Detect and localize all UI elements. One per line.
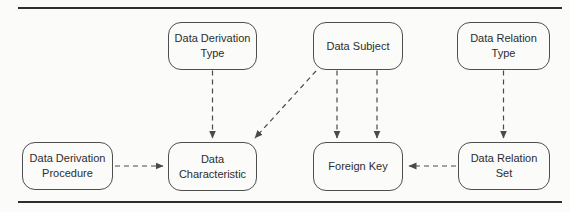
edge-data-subject-to-data-characteristic xyxy=(255,71,316,138)
node-data-derivation-type: Data Derivation Type xyxy=(168,22,257,70)
node-data-derivation-procedure: Data Derivation Procedure xyxy=(22,142,113,190)
diagram-figure: Data Derivation Type Data Subject Data R… xyxy=(0,0,570,212)
node-data-relation-set: Data Relation Set xyxy=(458,142,550,190)
node-data-characteristic: Data Characteristic xyxy=(168,142,257,191)
node-data-relation-type: Data Relation Type xyxy=(457,22,550,70)
node-data-subject: Data Subject xyxy=(313,22,403,70)
node-foreign-key: Foreign Key xyxy=(313,142,403,191)
